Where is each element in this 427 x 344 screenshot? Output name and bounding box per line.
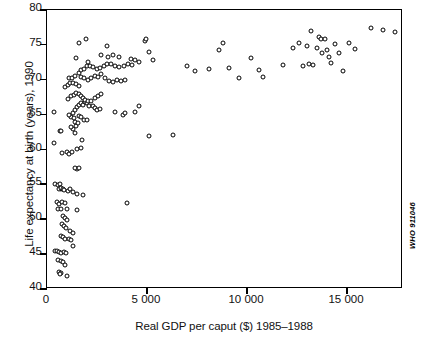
data-point: [305, 44, 310, 49]
data-point: [59, 207, 64, 212]
data-point: [58, 272, 63, 277]
plot-area: [46, 9, 402, 288]
data-point: [393, 29, 398, 34]
x-axis-tick-label: 10 000: [228, 293, 263, 305]
data-point: [75, 208, 80, 213]
data-point: [74, 192, 79, 197]
data-point: [207, 67, 212, 72]
data-point: [347, 41, 352, 46]
y-axis-tick-label: 75: [14, 36, 42, 48]
data-point: [147, 133, 152, 138]
data-point: [193, 69, 198, 74]
y-axis-tick-label: 65: [14, 106, 42, 118]
data-point: [291, 46, 296, 51]
data-point: [311, 63, 316, 68]
data-point: [69, 238, 74, 243]
data-point: [249, 56, 254, 61]
data-point: [76, 120, 81, 125]
data-point: [171, 132, 176, 137]
data-point: [117, 55, 122, 60]
data-point: [123, 77, 128, 82]
y-axis-tick-label: 55: [14, 175, 42, 187]
data-point: [227, 65, 232, 70]
data-point: [77, 41, 82, 46]
data-point: [221, 41, 226, 46]
y-axis-tick-label: 45: [14, 245, 42, 257]
data-point: [341, 69, 346, 74]
data-point: [81, 192, 86, 197]
y-axis-tick-label: 40: [14, 280, 42, 292]
y-axis-tick-label: 80: [14, 1, 42, 13]
data-point: [62, 201, 67, 206]
data-point: [353, 47, 358, 52]
data-point: [323, 36, 328, 41]
data-point: [325, 48, 330, 53]
data-point: [80, 137, 85, 142]
data-point: [51, 140, 56, 145]
x-axis-tick-label: 0: [43, 293, 49, 305]
data-point: [130, 63, 135, 68]
data-point: [52, 109, 57, 114]
data-point: [64, 250, 69, 255]
y-axis-tick-label: 70: [14, 71, 42, 83]
data-point: [315, 45, 320, 50]
x-axis-tick-label: 15 000: [328, 293, 363, 305]
data-point: [85, 117, 90, 122]
data-point: [309, 28, 314, 33]
data-point: [151, 57, 156, 62]
data-point: [105, 44, 110, 49]
data-point: [327, 54, 332, 59]
data-point: [301, 64, 306, 69]
data-point: [297, 41, 302, 46]
data-point: [84, 37, 89, 42]
data-point: [185, 64, 190, 69]
data-point: [133, 109, 138, 114]
data-point: [70, 230, 75, 235]
data-point: [86, 59, 91, 64]
data-point: [123, 111, 128, 116]
data-point: [71, 243, 76, 248]
data-point: [329, 61, 334, 66]
data-point: [111, 52, 116, 57]
data-points-layer: [47, 10, 401, 287]
data-point: [333, 42, 338, 47]
data-point: [74, 56, 79, 61]
x-axis-label: Real GDP per caput ($) 1985–1988: [46, 320, 402, 332]
data-point: [99, 53, 104, 58]
x-axis-tick-label: 5 000: [132, 293, 161, 305]
data-point: [137, 59, 142, 64]
scatter-chart-figure: Life expectancy at birth (years), 1990 4…: [0, 0, 427, 344]
data-point: [281, 63, 286, 68]
data-point: [98, 107, 103, 112]
data-point: [381, 27, 386, 32]
data-point: [261, 74, 266, 79]
data-point: [124, 200, 129, 205]
data-point: [77, 84, 82, 89]
data-point: [337, 51, 342, 56]
data-point: [237, 76, 242, 81]
data-point: [99, 91, 104, 96]
y-axis-tick-mark: [40, 288, 47, 290]
data-point: [65, 217, 70, 222]
data-point: [70, 150, 75, 155]
data-point: [60, 150, 65, 155]
data-point: [147, 49, 152, 54]
who-source-code: WHO 911046: [408, 196, 417, 256]
data-point: [77, 166, 82, 171]
data-point: [257, 67, 262, 72]
data-point: [64, 207, 69, 212]
data-point: [65, 274, 70, 279]
y-axis-tick-label: 50: [14, 210, 42, 222]
data-point: [58, 128, 63, 133]
y-axis-tick-label: 60: [14, 141, 42, 153]
data-point: [113, 109, 118, 114]
data-point: [137, 104, 142, 109]
data-point: [144, 36, 149, 41]
data-point: [369, 26, 374, 31]
data-point: [217, 47, 222, 52]
data-point: [63, 263, 68, 268]
data-point: [78, 146, 83, 151]
